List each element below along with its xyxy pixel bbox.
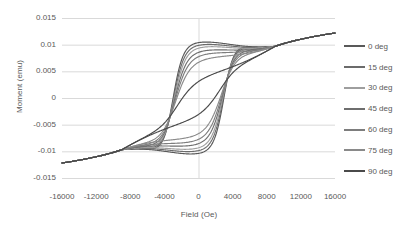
x-tick-label: 16000 <box>324 193 346 201</box>
legend-line-swatch <box>344 170 365 172</box>
legend-item-label: 30 deg <box>368 83 392 92</box>
x-tick-label: 0 <box>196 193 200 201</box>
legend-item[interactable]: 60 deg <box>344 119 408 140</box>
x-tick-label: 12000 <box>290 193 312 201</box>
legend-item[interactable]: 15 deg <box>344 57 408 78</box>
x-tick-label: -4000 <box>154 193 174 201</box>
x-tick-label: -12000 <box>84 193 109 201</box>
legend-item[interactable]: 30 deg <box>344 78 408 99</box>
legend-item[interactable]: 0 deg <box>344 36 408 57</box>
hysteresis-chart: Moment (emu) 0.0150.010.0050-0.005-0.01-… <box>0 0 409 229</box>
legend-line-swatch <box>344 45 365 47</box>
legend-item-label: 15 deg <box>368 63 392 72</box>
legend-item[interactable]: 75 deg <box>344 140 408 161</box>
legend-item-label: 90 deg <box>368 167 392 176</box>
chart-legend: 0 deg15 deg30 deg45 deg60 deg75 deg90 de… <box>344 36 408 182</box>
x-tick-label: -16000 <box>50 193 75 201</box>
legend-line-swatch <box>344 129 365 131</box>
x-tick-label: -8000 <box>120 193 140 201</box>
x-axis-tick-labels: -16000-12000-8000-4000040008000120001600… <box>0 193 409 205</box>
x-axis-title: Field (Oe) <box>62 210 336 219</box>
x-tick-label: 8000 <box>258 193 276 201</box>
legend-item-label: 75 deg <box>368 146 392 155</box>
legend-item-label: 45 deg <box>368 104 392 113</box>
legend-line-swatch <box>344 66 365 68</box>
legend-line-swatch <box>344 87 365 89</box>
legend-item[interactable]: 45 deg <box>344 98 408 119</box>
legend-item-label: 60 deg <box>368 125 392 134</box>
legend-item[interactable]: 90 deg <box>344 161 408 182</box>
legend-item-label: 0 deg <box>368 42 388 51</box>
x-tick-label: 4000 <box>224 193 242 201</box>
legend-line-swatch <box>344 108 365 110</box>
legend-line-swatch <box>344 149 365 151</box>
